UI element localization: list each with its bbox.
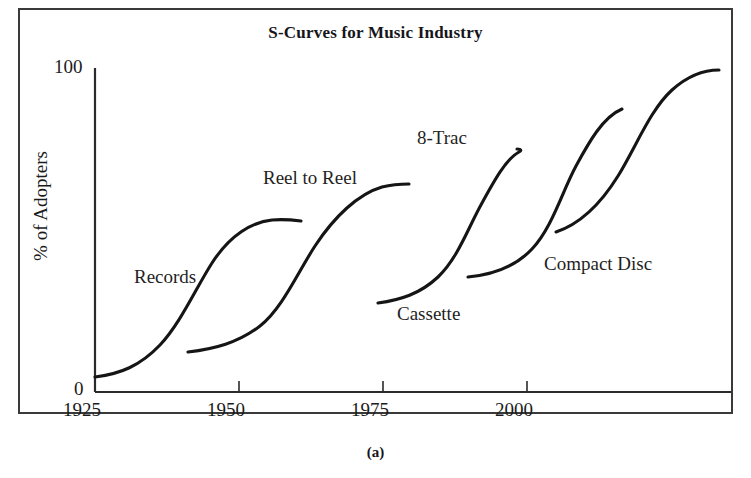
curve-label-reel-to-reel: Reel to Reel [263,167,357,189]
figure-caption: (a) [0,444,751,461]
curve-8-trac [378,149,521,303]
x-tick-label-2000: 2000 [495,399,533,421]
y-axis-label: % of Adopters [30,131,52,281]
x-tick-label-1950: 1950 [207,399,245,421]
x-tick-label-1925: 1925 [63,399,101,421]
curve-compact-disc [556,70,719,232]
curve-label-8-trac: 8-Trac [417,127,467,149]
curve-label-records: Records [134,266,196,288]
x-tick-label-1975: 1975 [351,399,389,421]
curve-label-compact-disc: Compact Disc [544,253,652,275]
curve-records [95,220,301,377]
y-tick-label-0: 0 [74,378,84,400]
curve-reel-to-reel [188,184,409,352]
curve-label-cassette: Cassette [397,303,460,325]
y-tick-label-100: 100 [54,56,83,78]
curve-cassette [468,109,622,277]
